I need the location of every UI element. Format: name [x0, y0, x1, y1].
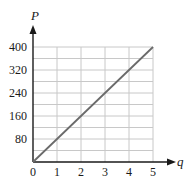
chart-svg: 01234580160240320400 q P [0, 0, 186, 182]
x-axis-label: q [177, 154, 184, 169]
tick-labels: 01234580160240320400 [9, 40, 156, 179]
x-axis-arrow-icon [167, 159, 176, 166]
y-tick-label: 80 [15, 132, 27, 146]
x-tick-label: 3 [102, 165, 108, 179]
x-tick-label: 5 [150, 165, 156, 179]
y-axis-arrow-icon [30, 25, 37, 34]
x-tick-label: 1 [54, 165, 60, 179]
x-tick-label: 0 [30, 165, 36, 179]
linear-chart: 01234580160240320400 q P [0, 0, 186, 182]
y-tick-label: 400 [9, 40, 27, 54]
y-tick-label: 320 [9, 63, 27, 77]
x-tick-label: 2 [78, 165, 84, 179]
x-tick-label: 4 [126, 165, 132, 179]
y-tick-label: 240 [9, 86, 27, 100]
y-tick-label: 160 [9, 109, 27, 123]
y-axis-label: P [30, 8, 39, 23]
